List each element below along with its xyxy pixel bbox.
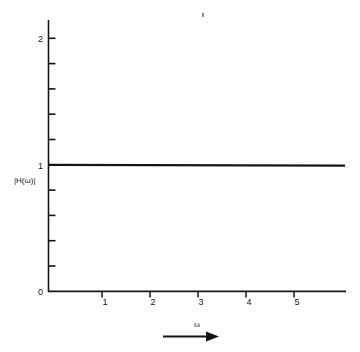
- x-tick-label-3: 3: [198, 297, 203, 307]
- x-tick-label-2: 2: [150, 297, 155, 307]
- y-axis-title: |H(ω)|: [14, 176, 36, 185]
- figure-canvas: 0 1 2 1 2 3 4 5 |H(ω)| ω: [0, 0, 360, 352]
- y-tick-label-1: 1: [38, 161, 43, 171]
- x-tick-label-1: 1: [102, 297, 107, 307]
- y-tick-label-0: 0: [38, 287, 43, 297]
- x-tick-label-4: 4: [246, 297, 251, 307]
- y-axis-ticks: [49, 38, 56, 266]
- y-tick-label-2: 2: [38, 34, 43, 44]
- x-axis-direction-arrow: [163, 332, 219, 342]
- magnitude-response-plot: 0 1 2 1 2 3 4 5 |H(ω)| ω: [0, 0, 360, 352]
- scan-artifact-speck: [202, 13, 204, 17]
- series-line-magnitude: [48, 165, 345, 166]
- x-axis-caption-omega: ω: [194, 319, 200, 329]
- x-tick-label-5: 5: [294, 297, 299, 307]
